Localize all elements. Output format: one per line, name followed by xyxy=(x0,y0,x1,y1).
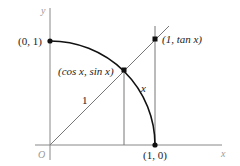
point-1-0 xyxy=(152,142,157,147)
label-point-cos-sin: (cos x, sin x) xyxy=(58,65,114,78)
point-cos-sin xyxy=(122,68,127,73)
radius-ray xyxy=(50,26,169,145)
label-radius: 1 xyxy=(82,94,88,106)
point-0-1 xyxy=(47,38,52,43)
point-1-tan xyxy=(153,37,158,42)
x-axis-label: x xyxy=(220,148,226,159)
origin-label: O xyxy=(38,149,45,160)
label-point-1-0: (1, 0) xyxy=(143,149,167,162)
diagram-canvas: y x O (0, 1) (1, 0) (cos x, sin x) (1, t… xyxy=(0,0,240,166)
label-arc: x xyxy=(140,82,146,94)
y-axis-label: y xyxy=(40,5,46,16)
label-point-1-tan: (1, tan x) xyxy=(162,33,202,46)
label-point-0-1: (0, 1) xyxy=(18,35,42,48)
unit-circle-diagram: y x O (0, 1) (1, 0) (cos x, sin x) (1, t… xyxy=(0,0,240,166)
